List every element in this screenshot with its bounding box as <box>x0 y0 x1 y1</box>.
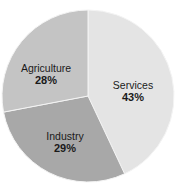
slice-name: Agriculture <box>21 62 71 74</box>
slice-name: Services <box>113 79 153 91</box>
slice-percent: 29% <box>46 142 83 154</box>
slice-name: Industry <box>46 130 83 142</box>
slice-label-services: Services 43% <box>113 79 153 103</box>
slice-percent: 43% <box>113 91 153 103</box>
slice-label-agriculture: Agriculture 28% <box>21 62 71 86</box>
slice-percent: 28% <box>21 74 71 86</box>
pie-chart <box>0 0 183 192</box>
slice-label-industry: Industry 29% <box>46 130 83 154</box>
